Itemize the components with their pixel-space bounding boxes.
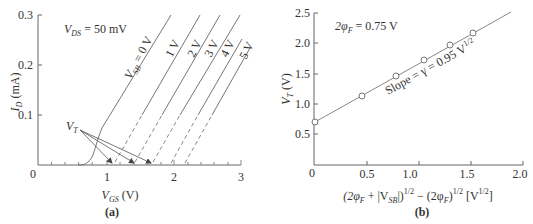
- panel-b-y-ticks: [314, 13, 318, 134]
- panel-b-ytick-0.5: 0.5: [295, 127, 310, 141]
- slope-annotation: Slope = γ = 0.95 V1/2: [382, 36, 478, 98]
- panel-b-ytick-2.0: 2.0: [295, 36, 310, 50]
- data-points: [312, 30, 476, 125]
- panel-b: 2.5 2.0 1.5 1.0 0.5 0 0.5 1.0 1.5 2.0 VT…: [279, 6, 528, 219]
- point: [312, 119, 318, 125]
- curve-label-4v: 4 V: [217, 37, 238, 59]
- panel-b-ytick-1.0: 1.0: [295, 97, 310, 111]
- curve-label-0v: VSB = 0 V: [121, 34, 157, 83]
- panel-a-xtick-2: 2: [171, 170, 177, 184]
- curve-label-5v: 5 V: [236, 39, 257, 61]
- panel-a-caption: (a): [105, 205, 119, 219]
- figure: 0.3 0.2 0.1 0 1 2 3 ID (mA) VGS (V) VDS …: [0, 0, 533, 224]
- point: [359, 93, 365, 99]
- vds-annotation: VDS = 50 mV: [64, 22, 127, 38]
- panel-b-x-ticks: [367, 161, 523, 165]
- vt-arrow-3: [80, 130, 151, 163]
- panel-a-ytick-0.3: 0.3: [18, 8, 33, 22]
- panel-a-xtick-1: 1: [104, 170, 110, 184]
- curve-label-2v: 2 V: [184, 37, 205, 59]
- panel-a-y-label: ID (mA): [8, 73, 24, 113]
- curve-vsb-3: [180, 15, 240, 115]
- panel-a: 0.3 0.2 0.1 0 1 2 3 ID (mA) VGS (V) VDS …: [8, 8, 257, 219]
- panel-a-xtick-3: 3: [238, 170, 244, 184]
- panel-b-caption: (b): [415, 205, 430, 219]
- panel-b-ytick-1.5: 1.5: [295, 67, 310, 81]
- phi-f-annotation: 2φF = 0.75 V: [335, 19, 398, 35]
- panel-b-xtick-1.0: 1.0: [403, 167, 418, 181]
- curve-vsb-1-dashed: [115, 115, 142, 162]
- panel-b-y-label: VT (V): [279, 73, 295, 104]
- panel-a-x-label: VGS (V): [102, 188, 139, 204]
- panel-b-xtick-2.0: 2.0: [513, 167, 528, 181]
- panel-b-x-label: (2φF + |VSB|)1/2 − (2φF)1/2 [V1/2]: [343, 187, 493, 205]
- curve-vsb-5-dashed: [185, 115, 212, 163]
- point: [470, 30, 476, 36]
- panel-a-y-ticks: [38, 15, 42, 115]
- panel-a-xtick-0: 0: [30, 167, 36, 181]
- vt-label: VT: [66, 119, 78, 135]
- curve-vsb-2-dashed: [135, 115, 162, 162]
- panel-b-ytick-2.5: 2.5: [295, 6, 310, 20]
- panel-a-ytick-0.2: 0.2: [18, 58, 33, 72]
- curve-vsb-4-dashed: [171, 115, 198, 163]
- panel-b-xtick-0: 0: [309, 166, 315, 180]
- curve-label-1v: 1 V: [162, 37, 183, 59]
- panel-b-xtick-0.5: 0.5: [360, 167, 375, 181]
- panel-b-xtick-1.5: 1.5: [460, 167, 475, 181]
